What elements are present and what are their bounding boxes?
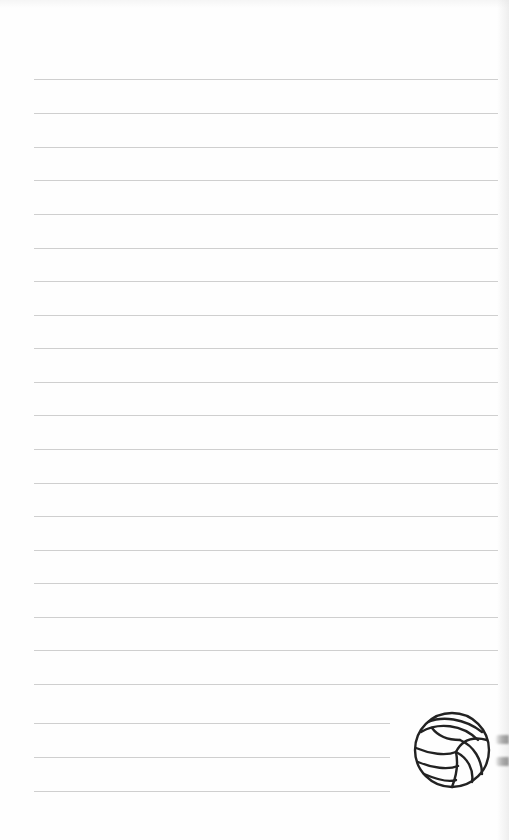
ruled-line — [34, 449, 498, 450]
ruled-line — [34, 248, 498, 249]
ruled-line — [34, 684, 498, 685]
ruled-line — [34, 650, 498, 651]
ruled-line — [34, 348, 498, 349]
ruled-line — [34, 757, 390, 758]
page-bleed-through — [0, 0, 509, 8]
volleyball-icon — [412, 710, 492, 790]
ruled-line — [34, 113, 498, 114]
ruled-line — [34, 147, 498, 148]
ruled-line — [34, 617, 498, 618]
page-edge-shadow — [497, 0, 509, 840]
ruled-line — [34, 315, 498, 316]
ruled-line — [34, 79, 498, 80]
ruled-line — [34, 415, 498, 416]
ruled-line — [34, 723, 390, 724]
ruled-line — [34, 382, 498, 383]
ruled-line — [34, 791, 390, 792]
ruled-line — [34, 583, 498, 584]
ruled-line — [34, 550, 498, 551]
ruled-line — [34, 180, 498, 181]
ruled-line — [34, 483, 498, 484]
ruled-line — [34, 214, 498, 215]
ruled-line — [34, 516, 498, 517]
ruled-line — [34, 281, 498, 282]
notebook-page — [0, 0, 509, 840]
